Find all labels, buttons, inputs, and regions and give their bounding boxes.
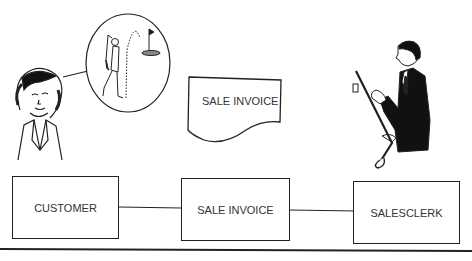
salesman-with-golf-club-icon <box>353 41 430 168</box>
diagram-canvas: SALE INVOICE CUSTOMER SALE INVOICE SALES… <box>0 0 472 261</box>
entity-salesclerk-label: SALESCLERK <box>370 207 442 219</box>
entity-customer-label: CUSTOMER <box>34 202 97 214</box>
document-symbol-label: SALE INVOICE <box>202 95 278 107</box>
entity-customer: CUSTOMER <box>12 176 119 239</box>
bottom-rule <box>0 249 472 251</box>
entity-sale-invoice: SALE INVOICE <box>181 178 290 241</box>
connector-customer-invoice <box>119 207 181 208</box>
connector-invoice-salesclerk <box>290 210 355 211</box>
entity-sale-invoice-label: SALE INVOICE <box>197 204 273 216</box>
golfer-thought-bubble <box>86 14 170 112</box>
document-symbol <box>188 77 281 142</box>
entity-salesclerk: SALESCLERK <box>353 181 460 244</box>
bubble-connector <box>63 71 88 77</box>
woman-portrait-icon <box>17 68 62 160</box>
